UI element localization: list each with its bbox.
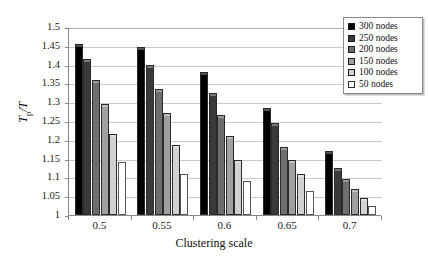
bar-top-face xyxy=(235,161,241,163)
bar-top-face xyxy=(119,163,125,165)
bar xyxy=(146,65,154,215)
bar-top-face xyxy=(361,199,367,201)
bar xyxy=(155,89,163,215)
y-tick-label: 1.3 xyxy=(0,96,60,107)
bar xyxy=(180,174,188,215)
bar-top-face xyxy=(227,137,233,139)
bar xyxy=(360,198,368,215)
bar xyxy=(118,162,126,215)
legend-item[interactable]: 150 nodes xyxy=(348,56,418,68)
x-tick-mark xyxy=(68,216,69,220)
plot-area xyxy=(68,28,381,216)
bar xyxy=(75,44,83,215)
legend-label: 100 nodes xyxy=(359,67,398,79)
y-tick-label: 1.35 xyxy=(0,77,60,88)
bar-top-face xyxy=(218,116,224,118)
bar xyxy=(306,191,314,215)
x-tick-label: 0.65 xyxy=(256,219,319,231)
bar-top-face xyxy=(164,114,170,116)
y-tick-label: 1.4 xyxy=(0,59,60,70)
bar-group xyxy=(132,27,195,215)
bar xyxy=(137,47,145,215)
legend-swatch-icon xyxy=(348,69,355,76)
bar xyxy=(209,93,217,215)
legend-item[interactable]: 100 nodes xyxy=(348,67,418,79)
bar-top-face xyxy=(210,94,216,96)
bar-top-face xyxy=(326,152,332,154)
bar-top-face xyxy=(289,161,295,163)
bar-top-face xyxy=(298,175,304,177)
legend-swatch-icon xyxy=(348,35,355,42)
bar-top-face xyxy=(93,81,99,83)
chart-legend: 300 nodes250 nodes200 nodes150 nodes100 … xyxy=(343,17,423,94)
legend-label: 50 nodes xyxy=(359,79,393,91)
bar xyxy=(163,113,171,215)
bar xyxy=(368,206,376,215)
bar xyxy=(92,80,100,215)
bar-group xyxy=(257,27,320,215)
bar xyxy=(325,151,333,215)
legend-item[interactable]: 300 nodes xyxy=(348,21,418,33)
legend-swatch-icon xyxy=(348,23,355,30)
x-tick-label: 0.7 xyxy=(318,219,381,231)
bar xyxy=(271,123,279,215)
bar xyxy=(217,115,225,215)
legend-swatch-icon xyxy=(348,81,355,88)
legend-swatch-icon xyxy=(348,46,355,53)
bar-top-face xyxy=(181,175,187,177)
bar xyxy=(200,72,208,215)
legend-label: 200 nodes xyxy=(359,44,398,56)
bar-top-face xyxy=(244,182,250,184)
legend-swatch-icon xyxy=(348,58,355,65)
bar-top-face xyxy=(201,73,207,75)
bar xyxy=(280,147,288,215)
bar-chart-figure: Tp/T Clustering scale 300 nodes250 nodes… xyxy=(0,0,428,264)
y-tick-label: 1.1 xyxy=(0,171,60,182)
x-tick-label: 0.6 xyxy=(193,219,256,231)
bar xyxy=(334,168,342,215)
bar-top-face xyxy=(147,66,153,68)
x-tick-mark xyxy=(381,216,382,220)
bar xyxy=(101,104,109,215)
legend-label: 250 nodes xyxy=(359,33,398,45)
y-tick-label: 1.2 xyxy=(0,134,60,145)
bar xyxy=(243,181,251,215)
legend-label: 300 nodes xyxy=(359,21,398,33)
x-tick-label: 0.55 xyxy=(131,219,194,231)
bar xyxy=(351,189,359,215)
legend-item[interactable]: 200 nodes xyxy=(348,44,418,56)
bar-group xyxy=(194,27,257,215)
bar-top-face xyxy=(173,146,179,148)
legend-item[interactable]: 250 nodes xyxy=(348,33,418,45)
bar-top-face xyxy=(264,109,270,111)
x-tick-label: 0.5 xyxy=(68,219,131,231)
bar-top-face xyxy=(102,105,108,107)
bar-top-face xyxy=(369,207,375,209)
bar xyxy=(109,134,117,215)
bar xyxy=(288,160,296,215)
bar-top-face xyxy=(76,45,82,47)
bar-top-face xyxy=(84,60,90,62)
bar-top-face xyxy=(110,135,116,137)
y-tick-label: 1.5 xyxy=(0,21,60,32)
x-axis-title: Clustering scale xyxy=(0,236,428,251)
y-tick-label: 1.45 xyxy=(0,40,60,51)
bar-top-face xyxy=(138,48,144,50)
bar xyxy=(297,174,305,215)
bar xyxy=(83,59,91,215)
bar xyxy=(226,136,234,215)
bar-top-face xyxy=(335,169,341,171)
y-tick-label: 1 xyxy=(0,209,60,220)
bar-top-face xyxy=(281,148,287,150)
bar-top-face xyxy=(272,124,278,126)
bar xyxy=(263,108,271,215)
y-tick-label: 1.25 xyxy=(0,115,60,126)
legend-item[interactable]: 50 nodes xyxy=(348,79,418,91)
bar-group xyxy=(69,27,132,215)
bar xyxy=(342,179,350,215)
bar xyxy=(234,160,242,215)
bar-top-face xyxy=(343,180,349,182)
y-tick-label: 1.05 xyxy=(0,190,60,201)
bar xyxy=(172,145,180,215)
bar-top-face xyxy=(352,190,358,192)
